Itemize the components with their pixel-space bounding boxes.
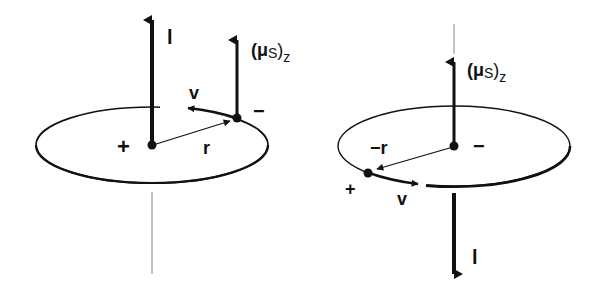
right-minus-label: − <box>473 135 485 157</box>
right-l-label: l <box>472 246 478 268</box>
right-orbit-front-arc <box>426 146 570 187</box>
right-orbit-charge-dot <box>364 169 373 178</box>
left-orbit-front-arc <box>36 145 268 183</box>
left-orbit-charge-dot <box>233 114 242 123</box>
right-r-arrow <box>377 147 453 169</box>
right-plus-label: + <box>345 179 356 199</box>
left-panel: l (μS)z v r + − <box>36 20 290 274</box>
left-l-label: l <box>167 26 173 48</box>
diagram-canvas: l (μS)z v r + − (μS)z − −r + v <box>0 0 593 291</box>
left-r-label: r <box>203 138 210 158</box>
right-center-charge-dot <box>450 142 459 151</box>
right-r-label: −r <box>370 138 388 158</box>
diagram-svg: l (μS)z v r + − (μS)z − −r + v <box>0 0 593 291</box>
left-mu-label: (μS)z <box>251 40 290 65</box>
left-v-label: v <box>189 83 199 103</box>
right-mu-label: (μS)z <box>467 60 506 85</box>
left-r-arrow <box>153 121 230 145</box>
right-v-label: v <box>397 189 407 209</box>
right-panel: (μS)z − −r + v l <box>338 24 570 274</box>
left-center-charge-dot <box>148 141 157 150</box>
left-minus-label: − <box>253 100 265 122</box>
left-plus-label: + <box>117 134 130 159</box>
